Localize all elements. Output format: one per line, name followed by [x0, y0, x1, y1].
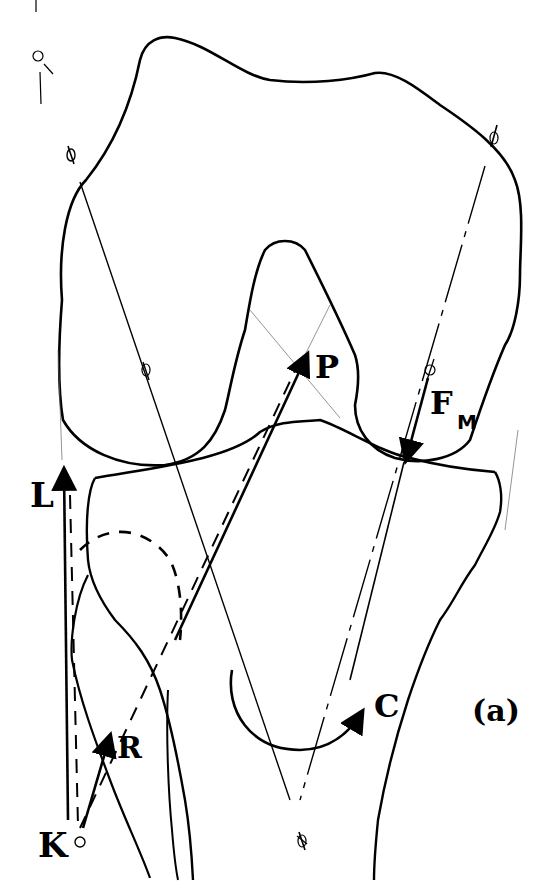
femur-axis-left: [80, 182, 290, 800]
label-R: R: [117, 733, 142, 763]
point-K-circle: [75, 837, 85, 847]
panel-label: (a): [472, 696, 520, 726]
force-arrow-FM: [406, 378, 428, 460]
label-F: F: [430, 387, 453, 419]
label-C: C: [374, 690, 399, 722]
phi-marker-right-top: [490, 125, 498, 147]
knee-diagram: [0, 0, 547, 891]
label-L: L: [30, 478, 54, 512]
phi-marker-left-top: [67, 146, 75, 164]
top-left-circle-marker: [33, 51, 43, 61]
force-line-FM-below: [350, 462, 404, 680]
top-left-tick-b: [40, 72, 41, 104]
force-arrow-R: [83, 736, 110, 828]
force-arrow-P: [175, 355, 307, 640]
top-left-tick-a: [44, 64, 53, 74]
label-K: K: [38, 828, 68, 862]
faint-line-4: [505, 430, 518, 530]
tibia-left-edge: [87, 478, 193, 880]
phi-marker-right-mid: [425, 359, 435, 380]
fibula-outer: [72, 575, 150, 878]
dashed-diagonal: [80, 360, 300, 828]
tibia-right-edge: [374, 472, 501, 880]
label-P: P: [315, 351, 339, 383]
phi-marker-bottom: [297, 832, 307, 850]
tibia-plateau: [95, 420, 495, 478]
force-arrow-L: [64, 470, 68, 820]
label-F-subscript-M: M: [457, 412, 477, 432]
